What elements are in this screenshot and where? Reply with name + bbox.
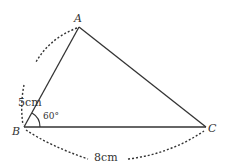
angle-label-b: 60° xyxy=(43,111,59,121)
side-length-ab: 5cm xyxy=(18,96,42,109)
vertex-label-c: C xyxy=(208,122,217,135)
vertex-label-a: A xyxy=(73,12,82,25)
vertex-label-b: B xyxy=(11,125,20,138)
dimension-arc-bc-right xyxy=(128,131,204,159)
angle-arc-b xyxy=(32,113,40,127)
side-length-bc: 8cm xyxy=(94,151,118,162)
dimension-arc-bc-left xyxy=(26,130,88,159)
dimension-arc-ab-upper xyxy=(36,28,77,62)
triangle-diagram: A B C 5cm 8cm 60° xyxy=(0,0,227,162)
side-ac xyxy=(79,27,206,127)
